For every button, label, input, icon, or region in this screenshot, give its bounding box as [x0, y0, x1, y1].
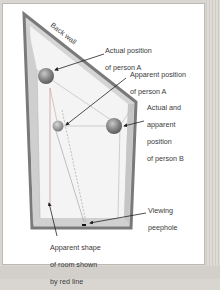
person-a-apparent-sphere	[53, 121, 64, 132]
person-a-actual-sphere	[38, 68, 54, 84]
label-apparent-shape: Apparent shape of room shown by red line	[50, 236, 101, 290]
label-person-b: Actual and apparent position of person B	[147, 96, 184, 172]
person-b-sphere	[106, 118, 122, 134]
peephole-marker	[82, 224, 86, 226]
label-viewing-peephole: Viewing peephole	[148, 199, 178, 241]
floor-bevel	[34, 218, 129, 226]
